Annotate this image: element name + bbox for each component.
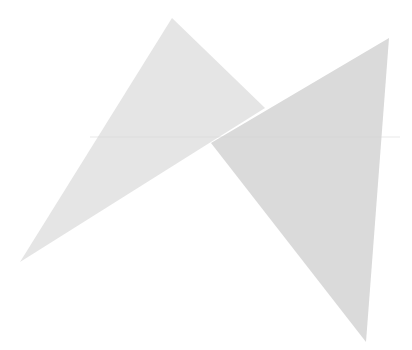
triangles-figure bbox=[0, 0, 412, 350]
